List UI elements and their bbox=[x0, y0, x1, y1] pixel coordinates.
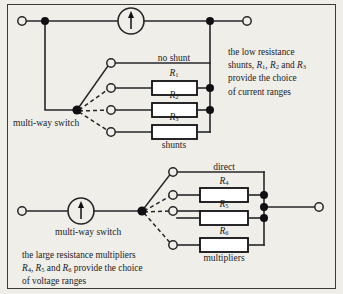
note-multipliers: the large resistance multipliers R4, R5 … bbox=[22, 249, 197, 289]
note-shunts-line4: of current ranges bbox=[228, 87, 291, 97]
bottom-junction-r5 bbox=[260, 214, 268, 222]
bottom-switch-dash-r6 bbox=[144, 213, 172, 245]
note-multipliers-and: and bbox=[45, 263, 63, 273]
label-shunts: shunts bbox=[162, 140, 186, 152]
bottom-right-terminal[interactable] bbox=[315, 203, 323, 211]
top-switch-contact-r1[interactable] bbox=[107, 84, 115, 92]
bottom-switch-contact-r6[interactable] bbox=[169, 241, 177, 249]
label-r6-sub: 6 bbox=[225, 229, 228, 236]
bottom-switch-contact-direct[interactable] bbox=[169, 168, 177, 176]
note-shunts-and: and bbox=[279, 60, 297, 70]
bottom-left-terminal[interactable] bbox=[18, 207, 26, 215]
top-switch-contact-r2[interactable] bbox=[107, 106, 115, 114]
top-junction-rail bbox=[206, 17, 214, 25]
bottom-circuit-group bbox=[18, 168, 323, 252]
label-r1-sub: 1 bbox=[175, 71, 178, 78]
bottom-junction-r4 bbox=[260, 191, 268, 199]
note-multipliers-line1: the large resistance multipliers bbox=[22, 250, 136, 260]
top-switch-blade bbox=[77, 63, 110, 110]
note-shunts-r3-sub: 3 bbox=[303, 63, 306, 70]
label-r5-sub: 5 bbox=[225, 202, 228, 209]
label-resistor-r5: R5 bbox=[219, 199, 228, 211]
resistor-r5-body bbox=[200, 211, 248, 225]
label-resistor-r4: R4 bbox=[219, 176, 228, 188]
label-resistor-r2: R2 bbox=[169, 90, 178, 102]
label-resistor-r1: R1 bbox=[169, 68, 178, 80]
top-switch-dash-r1 bbox=[79, 88, 110, 110]
top-switch-pivot[interactable] bbox=[72, 105, 81, 114]
label-no-shunt: no shunt bbox=[158, 53, 190, 65]
label-direct: direct bbox=[213, 162, 235, 174]
top-switch-dash-r3 bbox=[79, 112, 110, 132]
bottom-junction-output bbox=[260, 203, 268, 211]
note-multipliers-line3: of voltage ranges bbox=[22, 276, 86, 286]
note-shunts: the low resistance shunts, R1, R2 and R3… bbox=[228, 46, 336, 99]
bottom-switch-blade bbox=[142, 172, 172, 211]
circuit-figure: no shunt R1 R2 R3 shunts multi-way switc… bbox=[0, 0, 343, 294]
label-r4-sub: 4 bbox=[225, 179, 228, 186]
resistor-r6-body bbox=[200, 238, 248, 252]
bottom-switch-dash-r5 bbox=[144, 211, 172, 212]
top-right-terminal[interactable] bbox=[243, 17, 251, 25]
label-resistor-r3: R3 bbox=[169, 112, 178, 124]
top-switch-contact-no-shunt[interactable] bbox=[107, 59, 115, 67]
resistor-r3-body bbox=[152, 125, 197, 139]
top-left-terminal[interactable] bbox=[18, 17, 26, 25]
top-switch-dash-r2 bbox=[79, 110, 110, 111]
note-multipliers-tail: provide the choice bbox=[72, 263, 143, 273]
bottom-switch-pivot[interactable] bbox=[137, 206, 146, 215]
label-multipliers: multipliers bbox=[203, 253, 244, 265]
label-r3-sub: 3 bbox=[175, 115, 178, 122]
top-left-branch-wire bbox=[45, 21, 77, 110]
label-r2-sub: 2 bbox=[175, 93, 178, 100]
note-shunts-line1: the low resistance bbox=[228, 47, 295, 57]
label-multi-way-switch-top: multi-way switch bbox=[13, 118, 79, 130]
top-junction-r1 bbox=[206, 84, 214, 92]
note-shunts-line2-pre: shunts, bbox=[228, 60, 256, 70]
label-resistor-r6: R6 bbox=[219, 226, 228, 238]
top-junction-r2 bbox=[206, 106, 214, 114]
top-switch-contact-r3[interactable] bbox=[107, 128, 115, 136]
top-junction-left bbox=[41, 17, 49, 25]
note-shunts-line3: provide the choice bbox=[228, 73, 297, 83]
label-multi-way-switch-bottom: multi-way switch bbox=[55, 227, 121, 239]
bottom-switch-contact-r5[interactable] bbox=[169, 207, 177, 215]
bottom-switch-contact-r4[interactable] bbox=[169, 191, 177, 199]
